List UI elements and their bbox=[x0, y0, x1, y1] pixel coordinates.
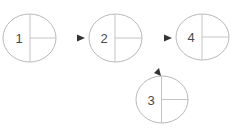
node-3-label: 3 bbox=[147, 93, 154, 108]
node-4: 4 bbox=[176, 14, 229, 60]
node-2: 2 bbox=[89, 14, 142, 62]
node-1: 1 bbox=[3, 14, 56, 62]
arrowhead-into-3 bbox=[154, 68, 161, 76]
node-1-label: 1 bbox=[15, 31, 22, 46]
arrowhead-2-to-4 bbox=[164, 35, 172, 42]
node-2-label: 2 bbox=[100, 31, 107, 46]
node-4-label: 4 bbox=[187, 30, 194, 45]
node-3: 3 bbox=[136, 76, 188, 123]
arrowhead-1-to-2 bbox=[77, 35, 85, 42]
flow-diagram: 1 2 4 3 bbox=[0, 0, 235, 131]
